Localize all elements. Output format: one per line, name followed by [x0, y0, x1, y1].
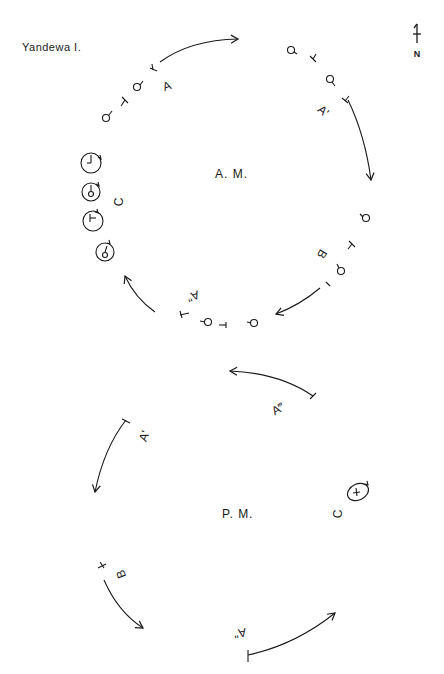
pm-arrow-b: [104, 580, 143, 628]
am-arrow-a: [160, 39, 238, 62]
am-glyphs-a-prime: [288, 47, 350, 104]
pm-arrow-a-prime: [95, 420, 126, 492]
diagram-canvas: [0, 0, 444, 674]
pm-glyph-b-marker: [98, 562, 106, 568]
am-arrow-a-prime: [348, 100, 371, 180]
am-arrow-a-double-prime: [125, 276, 155, 312]
am-arrow-b: [276, 288, 320, 314]
am-glyphs-a-double-prime: [180, 311, 258, 328]
pm-glyph-c: [345, 480, 372, 504]
am-glyphs-a: [103, 64, 158, 122]
pm-arrow-a-triple-prime: [230, 371, 313, 396]
am-glyphs-b: [326, 214, 370, 286]
pm-arrow-a-double-prime: [248, 613, 335, 655]
am-glyphs-c: [81, 153, 114, 261]
